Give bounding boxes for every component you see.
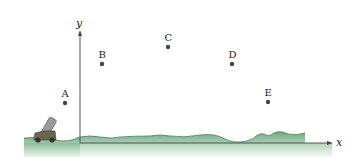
ground-lower-band <box>24 143 332 157</box>
point-e: E <box>265 87 272 104</box>
cannon-icon <box>34 117 57 143</box>
point-b: B <box>99 49 106 66</box>
trajectory-diagram: y x A B C D E <box>0 0 350 157</box>
point-label: A <box>61 88 70 99</box>
point-a: A <box>61 88 70 105</box>
y-axis-label: y <box>75 17 83 30</box>
axes: y x <box>75 17 343 149</box>
point-label: D <box>229 49 237 60</box>
point-label: B <box>99 49 106 60</box>
point-label: C <box>165 32 173 43</box>
point-c: C <box>165 32 173 49</box>
point-label: E <box>265 87 272 98</box>
y-axis-arrow-icon <box>78 30 82 36</box>
terrain <box>80 132 305 143</box>
point-d: D <box>229 49 237 66</box>
x-axis-label: x <box>336 136 343 149</box>
